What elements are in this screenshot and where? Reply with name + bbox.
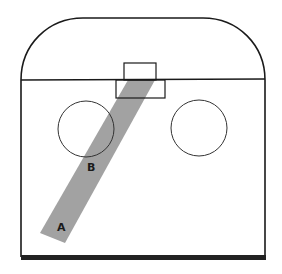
rink-diagram: B A [0, 0, 282, 274]
goal-net [124, 63, 156, 80]
faceoff-circle-right [171, 100, 227, 156]
shooting-lane-band [40, 80, 155, 243]
label-b: B [87, 161, 95, 174]
label-a: A [57, 221, 66, 234]
bottom-border [21, 255, 266, 260]
